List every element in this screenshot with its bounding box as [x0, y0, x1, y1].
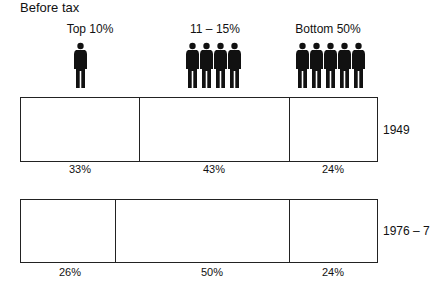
bar-1976-7 [20, 199, 378, 263]
share-1949-top: 33% [50, 163, 110, 175]
person-icon [324, 42, 337, 92]
person-icons-top-10 [74, 42, 87, 92]
share-1976-top: 26% [40, 266, 100, 278]
person-icon [296, 42, 309, 92]
share-1949-mid: 43% [184, 163, 244, 175]
group-label-top-10: Top 10% [30, 22, 150, 36]
person-icon [352, 42, 365, 92]
person-icon [74, 42, 87, 92]
person-icon [338, 42, 351, 92]
bar-1949 [20, 97, 378, 162]
share-1976-mid: 50% [182, 266, 242, 278]
person-icons-bottom-50 [296, 42, 365, 92]
year-label-1949: 1949 [383, 123, 410, 137]
person-icon [228, 42, 241, 92]
person-icon [310, 42, 323, 92]
chart-title: Before tax [20, 0, 79, 15]
divider [289, 98, 290, 161]
person-icons-11-15 [186, 42, 241, 92]
person-icon [214, 42, 227, 92]
share-1976-bottom: 24% [303, 266, 363, 278]
person-icon [186, 42, 199, 92]
divider [139, 98, 140, 161]
share-1949-bottom: 24% [303, 163, 363, 175]
divider [289, 200, 290, 262]
group-label-bottom-50: Bottom 50% [268, 22, 388, 36]
group-label-11-15: 11 – 15% [155, 22, 275, 36]
divider [115, 200, 116, 262]
year-label-1976-7: 1976 – 7 [383, 224, 430, 238]
person-icon [200, 42, 213, 92]
